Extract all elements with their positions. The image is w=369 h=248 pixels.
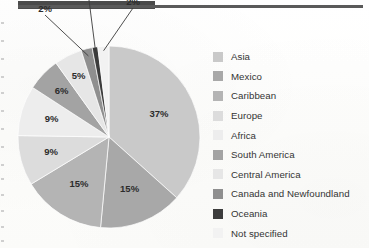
legend-swatch-icon — [213, 52, 223, 62]
legend-swatch-icon — [213, 111, 223, 121]
legend-label: Asia — [231, 51, 250, 62]
legend-label: South America — [231, 149, 295, 160]
legend-swatch-icon — [213, 91, 223, 101]
pie-chart-figure: 37%15%15%9%9%6%5% 2%1%2% — [0, 0, 214, 248]
legend-swatch-icon — [213, 71, 223, 81]
legend-item-canada-and-newfoundland[interactable]: Canada and Newfoundland — [213, 184, 369, 204]
callout-leader-line — [45, 15, 88, 56]
legend-item-south-america[interactable]: South America — [213, 145, 369, 165]
legend-label: Caribbean — [231, 90, 276, 101]
pie-data-label: 9% — [44, 146, 58, 157]
legend-swatch-icon — [213, 130, 223, 140]
legend-item-asia[interactable]: Asia — [213, 47, 369, 67]
pie-chart-svg: 37%15%15%9%9%6%5% 2%1%2% — [17, 0, 201, 229]
legend-item-not-specified[interactable]: Not specified — [213, 223, 369, 243]
legend-swatch-icon — [213, 228, 223, 238]
legend-label: Europe — [231, 110, 263, 121]
legend-item-mexico[interactable]: Mexico — [213, 67, 369, 87]
callout-leader-line — [104, 8, 133, 51]
pie-data-label: 5% — [72, 70, 86, 81]
legend-item-oceania[interactable]: Oceania — [213, 204, 369, 224]
pie-slice-group — [18, 46, 200, 228]
legend-item-caribbean[interactable]: Caribbean — [213, 86, 369, 106]
legend-swatch-icon — [213, 209, 223, 219]
legend-label: Not specified — [231, 228, 288, 239]
legend-swatch-icon — [213, 150, 223, 160]
pie-chart: 37%15%15%9%9%6%5% 2%1%2% — [17, 0, 201, 229]
legend-swatch-icon — [213, 169, 223, 179]
legend-item-africa[interactable]: Africa — [213, 125, 369, 145]
legend-label: Oceania — [231, 208, 267, 219]
legend-swatch-icon — [213, 189, 223, 199]
legend-item-europe[interactable]: Europe — [213, 106, 369, 126]
pie-data-label: 15% — [120, 183, 140, 194]
legend-item-central-america[interactable]: Central America — [213, 165, 369, 185]
chart-legend: AsiaMexicoCaribbeanEuropeAfricaSouth Ame… — [213, 47, 369, 243]
pie-data-label: 6% — [55, 85, 69, 96]
callout-leader-line — [89, 0, 96, 52]
pie-data-label: 37% — [149, 108, 169, 119]
pie-data-label: 15% — [69, 178, 89, 189]
document-page: 37%15%15%9%9%6%5% 2%1%2% AsiaMexicoCarib… — [0, 0, 369, 248]
legend-label: Canada and Newfoundland — [231, 188, 350, 199]
pie-callout-label: 2% — [126, 0, 140, 7]
pie-data-label: 9% — [45, 113, 59, 124]
pie-callout-label: 2% — [38, 3, 52, 14]
legend-label: Africa — [231, 130, 256, 141]
legend-label: Central America — [231, 169, 301, 180]
legend-label: Mexico — [231, 71, 262, 82]
